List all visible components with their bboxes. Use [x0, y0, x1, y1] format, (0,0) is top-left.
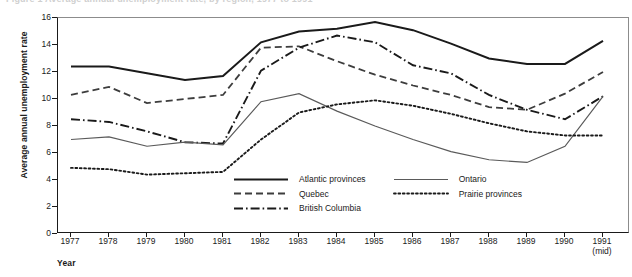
y-axis-title: Average annual unemployment rate: [19, 0, 29, 215]
unemployment-line-chart-figure: Figure 1 Average annual unemployment rat…: [0, 0, 632, 277]
x-tick-1989: 1989: [506, 236, 546, 246]
x-tick-1977: 1977: [50, 236, 90, 246]
legend-key-ontario: [392, 175, 454, 184]
y-tickmark-0: [52, 233, 57, 234]
legend-label-prairie-provinces: Prairie provinces: [459, 187, 548, 202]
x-tick-1983: 1983: [278, 236, 318, 246]
y-tick-12: 12: [11, 67, 51, 75]
y-tick-4: 4: [11, 175, 51, 183]
legend-key-prairie-provinces: [392, 189, 454, 198]
y-tick-2: 2: [11, 202, 51, 210]
x-tick-1988: 1988: [468, 236, 508, 246]
legend-label-atlantic-provinces: Atlantic provinces: [299, 172, 392, 187]
y-tick-0: 0: [11, 229, 51, 237]
legend-key-quebec: [232, 189, 294, 198]
x-tick-1987: 1987: [430, 236, 470, 246]
x-tick-1990: 1990: [544, 236, 584, 246]
x-tick-sublabel: (mid): [582, 246, 622, 256]
chart-legend: Atlantic provinces Ontario Quebec Prairi…: [232, 172, 548, 216]
line-quebec: [71, 46, 603, 109]
y-tick-6: 6: [11, 148, 51, 156]
legend-key-atlantic-provinces: [232, 175, 294, 184]
legend-label-british-columbia: British Columbia: [299, 201, 392, 216]
x-tick-1986: 1986: [392, 236, 432, 246]
y-tick-16: 16: [11, 13, 51, 21]
x-tick-1985: 1985: [354, 236, 394, 246]
legend-key-british-columbia: [232, 204, 294, 213]
figure-title-cropped: Figure 1 Average annual unemployment rat…: [0, 0, 632, 8]
x-tick-1980: 1980: [164, 236, 204, 246]
x-tick-1981: 1981: [202, 236, 242, 246]
x-axis-title: Year: [57, 258, 76, 268]
x-tick-1991: 1991(mid): [582, 236, 622, 256]
x-tick-1979: 1979: [126, 236, 166, 246]
legend-label-quebec: Quebec: [299, 187, 392, 202]
legend-label-ontario: Ontario: [459, 172, 548, 187]
y-tick-8: 8: [11, 121, 51, 129]
y-tick-10: 10: [11, 94, 51, 102]
y-tick-14: 14: [11, 40, 51, 48]
line-atlantic-provinces: [71, 22, 603, 80]
x-tick-1982: 1982: [240, 236, 280, 246]
x-tick-1984: 1984: [316, 236, 356, 246]
x-tick-1978: 1978: [88, 236, 128, 246]
line-british-columbia: [71, 36, 603, 144]
